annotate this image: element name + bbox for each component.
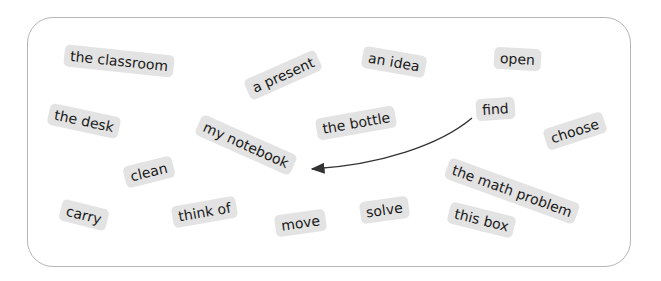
word-chip-open[interactable]: open — [493, 47, 541, 71]
word-chip-find[interactable]: find — [475, 97, 515, 122]
